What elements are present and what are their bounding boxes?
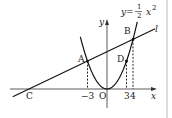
- equation-numerator: 1: [137, 3, 141, 11]
- point-b: [132, 38, 135, 41]
- coordinate-diagram: A B C D O x y l −3 3 4 y= 1 2 x 2: [0, 0, 172, 118]
- x-axis-label: x: [151, 91, 156, 101]
- line-l-label: l: [155, 24, 158, 34]
- y-axis-label: y: [98, 17, 105, 27]
- label-d: D: [117, 54, 124, 64]
- equation-denominator: 2: [137, 12, 141, 20]
- label-b: B: [124, 26, 131, 36]
- parabola-equation: y= 1 2 x 2: [120, 3, 156, 20]
- equation-rhs: x: [146, 7, 151, 17]
- tick-label-neg3: −3: [81, 91, 95, 101]
- equation-exponent: 2: [152, 4, 156, 12]
- label-a: A: [77, 54, 85, 64]
- equation-lhs: y=: [120, 7, 134, 17]
- tick-label-4: 4: [130, 91, 136, 101]
- point-a: [86, 60, 89, 63]
- y-axis-arrow-icon: [105, 19, 109, 25]
- point-d: [125, 60, 128, 63]
- label-c: C: [26, 91, 33, 101]
- origin-label: O: [99, 91, 106, 101]
